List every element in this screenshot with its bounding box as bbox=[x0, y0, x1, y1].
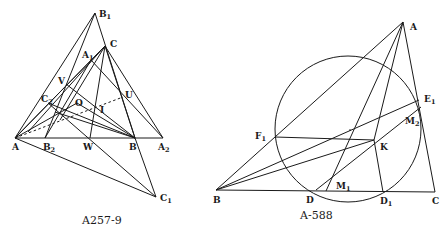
label-B: B bbox=[129, 142, 137, 152]
label-V: V bbox=[57, 76, 66, 86]
circle bbox=[275, 56, 421, 202]
label-B-right: B bbox=[213, 195, 221, 205]
line-b-k bbox=[216, 140, 374, 190]
center-dot bbox=[349, 129, 351, 131]
label-A: A bbox=[11, 142, 20, 152]
line-a-b1 bbox=[15, 13, 95, 138]
label-U: U bbox=[125, 90, 133, 100]
line-c2-b bbox=[48, 103, 135, 138]
label-D1: D1 bbox=[380, 196, 392, 208]
label-W: W bbox=[82, 142, 94, 152]
line-b-c bbox=[216, 190, 435, 192]
label-C2: C2 bbox=[41, 94, 53, 106]
label-K: K bbox=[380, 142, 389, 152]
line-a-b bbox=[216, 22, 403, 190]
caption-left: A257-9 bbox=[81, 214, 122, 227]
label-B1: B1 bbox=[99, 9, 111, 21]
label-M2: M2 bbox=[405, 116, 420, 128]
label-A2: A2 bbox=[157, 142, 170, 154]
label-C-right: C bbox=[432, 196, 439, 206]
dashed-line-a-u bbox=[15, 97, 123, 138]
figure-a257-9: B1 C A1 V C2 O I U A B2 W B A2 C1 A257-9 bbox=[11, 9, 172, 227]
label-A-right: A bbox=[409, 22, 418, 32]
line-fan-b1 bbox=[55, 112, 135, 138]
line-a-k bbox=[374, 22, 403, 140]
line-f1-k bbox=[275, 137, 374, 140]
label-D: D bbox=[306, 195, 314, 205]
figure-a-588: A E1 M2 F1 K M1 B D D1 C A-588 bbox=[213, 22, 439, 222]
line-o-b bbox=[77, 103, 135, 138]
label-I: I bbox=[100, 105, 104, 115]
line-a-m1 bbox=[326, 22, 403, 191]
label-E1: E1 bbox=[424, 94, 435, 106]
label-C1: C1 bbox=[160, 193, 172, 205]
label-O: O bbox=[75, 98, 83, 108]
line-c-a2 bbox=[105, 46, 163, 138]
label-C: C bbox=[110, 39, 117, 49]
caption-right: A-588 bbox=[299, 209, 333, 222]
geometry-figures: B1 C A1 V C2 O I U A B2 W B A2 C1 A257-9 bbox=[0, 0, 442, 231]
label-F1: F1 bbox=[255, 131, 266, 143]
line-a-c bbox=[403, 22, 435, 192]
label-A1: A1 bbox=[81, 50, 94, 62]
line-b-e1 bbox=[216, 100, 419, 190]
